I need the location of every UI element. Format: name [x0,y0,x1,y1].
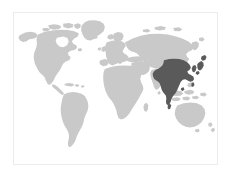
world-map-widget [0,0,231,177]
map-frame-border [13,12,218,165]
world-map-canvas [14,13,217,164]
